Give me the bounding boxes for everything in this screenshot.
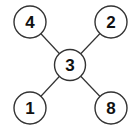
node-label: 4 — [25, 13, 35, 32]
node-bottom-left: 1 — [14, 92, 46, 124]
node-top-left: 4 — [14, 6, 46, 38]
node-label: 2 — [106, 13, 115, 32]
star-diagram: 4 2 3 1 8 — [0, 0, 138, 132]
node-center: 3 — [55, 50, 86, 81]
node-label: 1 — [25, 99, 34, 118]
node-label: 3 — [65, 56, 74, 75]
node-bottom-right: 8 — [95, 92, 127, 124]
node-top-right: 2 — [95, 6, 127, 38]
node-label: 8 — [106, 99, 115, 118]
